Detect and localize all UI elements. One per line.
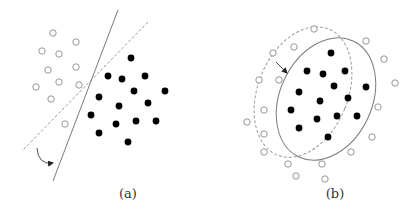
open-data-point	[285, 161, 291, 167]
rotation-arrow-icon	[37, 148, 53, 163]
open-data-point	[73, 64, 79, 70]
solid-ellipse-boundary	[257, 22, 394, 177]
open-data-point	[348, 149, 354, 155]
filled-data-point	[162, 88, 169, 95]
open-data-point	[45, 67, 51, 73]
filled-data-point	[334, 113, 341, 120]
panel-a-linear-separator: (a)	[22, 10, 168, 201]
filled-data-point	[345, 95, 352, 102]
open-data-point	[311, 26, 317, 32]
filled-data-point	[96, 94, 103, 101]
filled-data-point	[317, 98, 324, 105]
open-data-point	[381, 56, 387, 62]
open-data-point	[48, 96, 54, 102]
open-data-point	[319, 161, 325, 167]
filled-data-point	[105, 73, 112, 80]
filled-data-point	[296, 89, 303, 96]
filled-data-point	[96, 130, 103, 137]
filled-data-point	[88, 112, 95, 119]
open-data-point	[33, 84, 39, 90]
open-data-point	[261, 131, 267, 137]
open-data-point	[293, 173, 299, 179]
open-data-point	[50, 30, 56, 36]
solid-decision-boundary	[53, 10, 118, 181]
open-data-point	[261, 107, 267, 113]
filled-data-point	[153, 118, 160, 125]
filled-data-point	[142, 73, 149, 80]
open-data-point	[256, 77, 262, 83]
filled-data-point	[125, 139, 132, 146]
open-data-point	[392, 80, 398, 86]
filled-data-point	[296, 125, 303, 132]
filled-data-point	[119, 76, 126, 83]
open-data-point	[369, 134, 375, 140]
filled-data-point	[304, 68, 311, 75]
open-data-point	[261, 149, 267, 155]
open-data-point	[62, 121, 68, 127]
filled-data-point	[354, 113, 361, 120]
open-data-point	[363, 38, 369, 44]
filled-data-point	[342, 68, 349, 75]
open-data-point	[39, 48, 45, 54]
open-data-point	[276, 77, 282, 83]
shrink-arrow-icon	[276, 62, 287, 73]
diagram-canvas: (a) (b)	[0, 0, 416, 216]
dashed-ellipse-boundary	[236, 12, 370, 172]
filled-data-point	[314, 116, 321, 123]
panel-caption: (a)	[119, 186, 137, 201]
filled-data-point	[116, 103, 123, 110]
panel-b-ellipse-boundary: (b)	[236, 12, 398, 201]
filled-data-point	[288, 107, 295, 114]
open-data-point	[56, 51, 62, 57]
dashed-decision-boundary	[22, 22, 148, 151]
filled-data-point	[131, 88, 138, 95]
panel-caption: (b)	[326, 186, 344, 201]
filled-data-point	[331, 83, 338, 90]
open-data-point	[375, 104, 381, 110]
filled-data-point	[320, 71, 327, 78]
filled-data-point	[128, 55, 135, 62]
filled-data-point	[145, 100, 152, 107]
filled-data-point	[113, 121, 120, 128]
filled-data-point	[363, 84, 370, 91]
open-data-point	[291, 44, 297, 50]
open-data-point	[76, 82, 82, 88]
open-data-point	[56, 79, 62, 85]
open-data-point	[73, 39, 79, 45]
filled-data-point	[133, 118, 140, 125]
filled-data-point	[325, 134, 332, 141]
open-data-point	[270, 50, 276, 56]
open-data-point	[322, 176, 328, 182]
filled-data-point	[328, 50, 335, 57]
open-data-point	[244, 119, 250, 125]
